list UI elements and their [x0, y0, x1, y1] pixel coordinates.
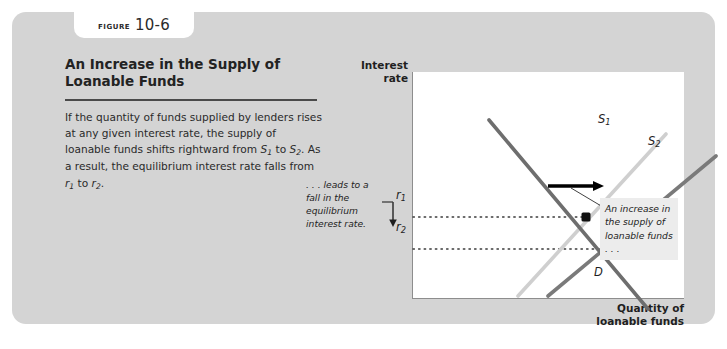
x-axis-label: Quantity of loanable funds [518, 302, 684, 328]
curve-label-d-letter: D [594, 265, 603, 279]
y-axis-label-line1: Interest [342, 59, 408, 72]
figure-panel: Figure 10-6 An Increase in the Supply of… [12, 12, 715, 324]
loanable-funds-chart: Interest rate Quantity of loanable funds… [342, 50, 702, 320]
curve-label-s1-sub: 1 [605, 117, 610, 127]
figure-number: 10-6 [135, 16, 170, 34]
curve-label-s1: S1 [598, 112, 611, 127]
curve-label-d: D [594, 265, 603, 279]
fall-arrow-icon [382, 200, 404, 228]
plot-area [412, 72, 684, 299]
equilibrium-point-initial [582, 213, 591, 222]
desc-part-2: to [272, 143, 289, 155]
y-axis-label-line2: rate [342, 72, 408, 85]
curve-label-s2-sub: 2 [655, 139, 660, 149]
figure-description: If the quantity of funds supplied by len… [65, 109, 323, 192]
curve-label-s2: S2 [648, 134, 661, 149]
curves-layer [413, 72, 685, 299]
desc-part-5: . [101, 177, 104, 189]
figure-screenshot: Figure 10-6 An Increase in the Supply of… [0, 0, 727, 349]
title-divider [65, 99, 317, 101]
rightward-shift-arrow-icon [548, 181, 604, 191]
x-axis-label-line1: Quantity of [518, 302, 684, 315]
desc-part-4: to [74, 177, 91, 189]
figure-title: An Increase in the Supply of Loanable Fu… [65, 56, 323, 90]
supply-increase-note: An increase in the supply of loanable fu… [600, 198, 678, 260]
figure-number-tab: Figure 10-6 [74, 12, 194, 38]
figure-word-label: Figure [98, 20, 130, 31]
y-axis-label: Interest rate [342, 59, 408, 85]
caption-column: An Increase in the Supply of Loanable Fu… [65, 56, 323, 192]
left-callout-text: . . . leads to a fall in the equilibrium… [306, 178, 378, 230]
x-axis-label-line2: loanable funds [518, 315, 684, 328]
